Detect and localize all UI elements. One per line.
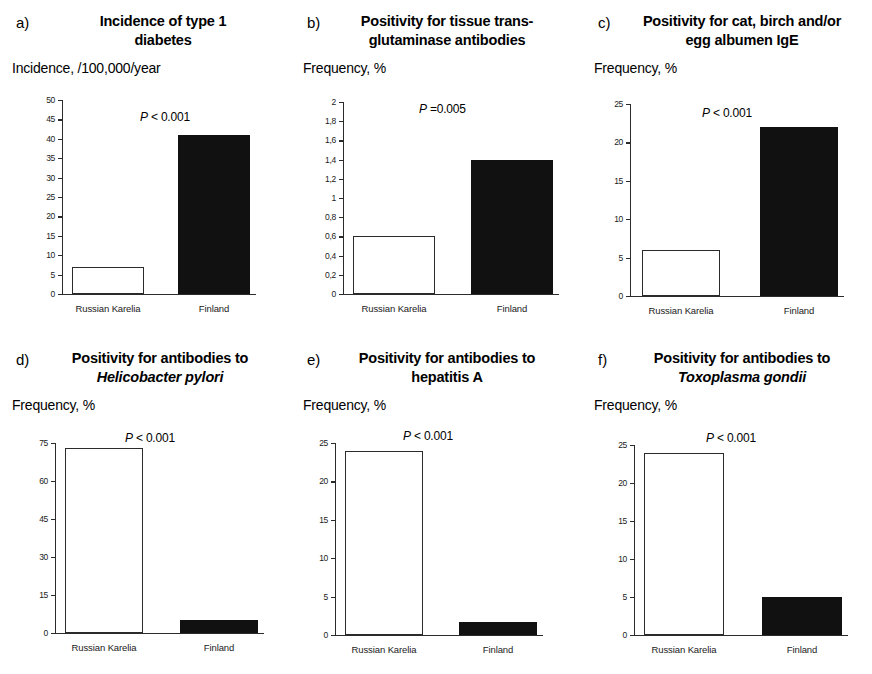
chart-panel-a: a)Incidence of type 1diabetesIncidence, …	[0, 0, 290, 337]
p-value-text: =0.005	[427, 102, 466, 116]
x-axis-category-label: Finland	[156, 642, 282, 653]
y-axis-tick	[630, 445, 634, 446]
y-axis-tick	[630, 483, 634, 484]
y-axis-line	[62, 100, 63, 295]
chart-panel-d: d)Positivity for antibodies toHelicobact…	[0, 337, 290, 674]
p-symbol: P	[403, 429, 411, 443]
y-axis-tick-label: 20	[302, 476, 328, 486]
y-axis-tick	[339, 217, 343, 218]
plot-area: 0510152025Russian KareliaFinlandP < 0.00…	[582, 423, 872, 674]
x-axis-line	[62, 294, 256, 295]
y-axis-tick	[630, 597, 634, 598]
bar-finland	[471, 160, 553, 294]
y-axis-tick-label: 15	[597, 176, 623, 186]
y-axis-tick	[51, 595, 55, 596]
chart-panel-f: f)Positivity for antibodies toToxoplasma…	[582, 337, 872, 674]
p-value-annotation: P < 0.001	[706, 431, 756, 445]
y-axis-tick	[331, 520, 335, 521]
y-axis-tick-label: 1,6	[302, 135, 336, 145]
y-axis-tick-label: 50	[21, 95, 55, 105]
bar-russian-karelia	[644, 453, 724, 635]
y-axis-tick	[331, 597, 335, 598]
panel-title-line: hepatitis A	[321, 368, 573, 387]
y-axis-tick-label: 0	[21, 289, 55, 299]
y-axis-tick	[630, 559, 634, 560]
chart-panel-e: e)Positivity for antibodies tohepatitis …	[291, 337, 581, 674]
p-symbol: P	[419, 102, 427, 116]
y-axis-tick-label: 35	[21, 153, 55, 163]
p-value-text: < 0.001	[714, 431, 756, 445]
y-axis-tick	[339, 198, 343, 199]
panel-title-line: Positivity for antibodies to	[620, 349, 864, 368]
y-axis-tick-label: 1,8	[302, 116, 336, 126]
y-axis-tick	[58, 119, 62, 120]
x-axis-category-label: Russian Karelia	[41, 642, 167, 653]
y-axis-line	[55, 443, 56, 634]
y-axis-tick-label: 45	[21, 114, 55, 124]
bar-finland	[178, 135, 250, 294]
panel-header: b)Positivity for tissue trans-glutaminas…	[291, 0, 581, 86]
y-axis-tick-label: 75	[18, 438, 48, 448]
y-axis-tick-label: 2	[302, 97, 336, 107]
x-axis-category-label: Russian Karelia	[620, 644, 748, 655]
y-axis-title: Frequency, %	[594, 60, 677, 76]
chart-panel-b: b)Positivity for tissue trans-glutaminas…	[291, 0, 581, 337]
y-axis-tick-label: 20	[21, 211, 55, 221]
panel-header: f)Positivity for antibodies toToxoplasma…	[582, 337, 872, 423]
plot-area: 0510152025Russian KareliaFinlandP < 0.00…	[582, 86, 872, 337]
panel-title: Positivity for antibodies tohepatitis A	[321, 349, 573, 387]
panel-title: Positivity for cat, birch and/oregg albu…	[620, 12, 864, 50]
y-axis-tick	[58, 100, 62, 101]
bar-finland	[762, 597, 842, 635]
y-axis-tick-label: 1,4	[302, 155, 336, 165]
p-symbol: P	[706, 431, 714, 445]
y-axis-tick-label: 15	[21, 231, 55, 241]
x-axis-category-label: Russian Karelia	[321, 644, 447, 655]
panel-title: Positivity for tissue trans-glutaminase …	[321, 12, 573, 50]
y-axis-tick-label: 40	[21, 134, 55, 144]
panel-letter: d)	[16, 351, 29, 368]
y-axis-tick	[58, 236, 62, 237]
y-axis-tick	[331, 558, 335, 559]
x-axis-category-label: Russian Karelia	[329, 303, 459, 314]
y-axis-tick-label: 0,2	[302, 270, 336, 280]
y-axis-tick-label: 10	[601, 554, 627, 564]
panel-title: Positivity for antibodies toHelicobacter…	[38, 349, 282, 387]
panel-header: d)Positivity for antibodies toHelicobact…	[0, 337, 290, 423]
y-axis-tick-label: 0,4	[302, 251, 336, 261]
y-axis-tick-label: 0	[601, 630, 627, 640]
panel-title-line: Positivity for tissue trans-	[321, 12, 573, 31]
y-axis-tick	[51, 443, 55, 444]
y-axis-tick	[58, 275, 62, 276]
y-axis-tick	[339, 121, 343, 122]
y-axis-tick-label: 15	[18, 590, 48, 600]
p-value-annotation: P < 0.001	[125, 431, 175, 445]
y-axis-tick	[626, 258, 630, 259]
p-value-annotation: P < 0.001	[140, 110, 190, 124]
y-axis-tick	[51, 519, 55, 520]
panel-header: e)Positivity for antibodies tohepatitis …	[291, 337, 581, 423]
y-axis-tick	[58, 139, 62, 140]
y-axis-tick-label: 25	[302, 438, 328, 448]
y-axis-tick-label: 15	[302, 515, 328, 525]
p-value-annotation: P < 0.001	[403, 429, 453, 443]
y-axis-tick	[339, 160, 343, 161]
y-axis-tick-label: 25	[601, 440, 627, 450]
y-axis-tick	[626, 219, 630, 220]
y-axis-title: Frequency, %	[303, 60, 386, 76]
y-axis-tick	[339, 179, 343, 180]
y-axis-tick-label: 20	[601, 478, 627, 488]
y-axis-tick	[339, 236, 343, 237]
x-axis-category-label: Finland	[154, 303, 274, 314]
panel-letter: f)	[598, 351, 607, 368]
y-axis-tick	[58, 158, 62, 159]
plot-area: 01530456075Russian KareliaFinlandP < 0.0…	[0, 423, 290, 674]
y-axis-tick	[626, 181, 630, 182]
y-axis-line	[634, 445, 635, 636]
p-symbol: P	[125, 431, 133, 445]
y-axis-title: Frequency, %	[594, 397, 677, 413]
panel-title: Positivity for antibodies toToxoplasma g…	[620, 349, 864, 387]
x-axis-category-label: Russian Karelia	[618, 305, 744, 316]
y-axis-tick-label: 25	[597, 99, 623, 109]
y-axis-tick-label: 25	[21, 192, 55, 202]
